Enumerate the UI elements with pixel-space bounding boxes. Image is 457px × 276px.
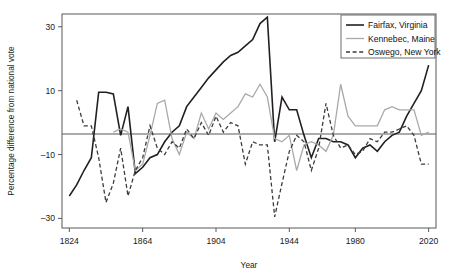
series-line-kennebec-maine bbox=[113, 84, 428, 170]
x-tick-label: 1944 bbox=[280, 236, 299, 246]
x-tick-labels: 182418641904194419802020 bbox=[60, 236, 439, 246]
y-tick-label: –30 bbox=[41, 213, 56, 223]
chart-figure: 3010–10–30 182418641904194419802020 Perc… bbox=[0, 0, 457, 276]
chart-legend: Fairfax, VirginiaKennebec, MaineOswego, … bbox=[341, 15, 441, 58]
x-tick-label: 1824 bbox=[60, 236, 79, 246]
y-tick-label: 10 bbox=[45, 86, 55, 96]
x-axis-title: Year bbox=[241, 260, 258, 270]
x-tick-label: 1904 bbox=[206, 236, 225, 246]
legend-label: Kennebec, Maine bbox=[368, 34, 435, 44]
y-axis-title: Percentage difference from national vote bbox=[6, 46, 16, 196]
y-tick-label: 30 bbox=[45, 22, 55, 32]
line-chart-canvas: 3010–10–30 182418641904194419802020 Perc… bbox=[0, 0, 457, 276]
y-tick-label: –10 bbox=[41, 150, 56, 160]
legend-label: Fairfax, Virginia bbox=[368, 20, 428, 30]
x-tick-label: 1980 bbox=[346, 236, 365, 246]
x-tick-label: 2020 bbox=[419, 236, 438, 246]
y-tick-labels: 3010–10–30 bbox=[41, 22, 56, 224]
x-tick-label: 1864 bbox=[133, 236, 152, 246]
legend-label: Oswego, New York bbox=[368, 47, 441, 57]
